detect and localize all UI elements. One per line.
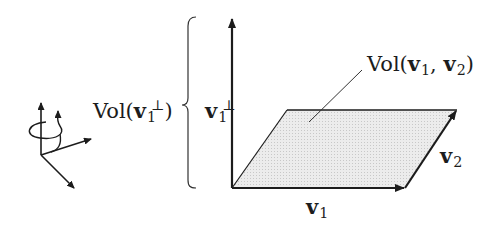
v2-label: v2 (440, 145, 462, 167)
vol-perp-label: Vol(v1⊥) (93, 100, 173, 122)
diagram-canvas (0, 0, 488, 225)
v1-label: v1 (306, 196, 328, 218)
curly-brace (182, 17, 196, 188)
perp-axis-label: v1⊥ (205, 100, 236, 122)
rotation-axes-icon (29, 103, 91, 188)
vol-area-label: Vol(v1, v2) (367, 53, 474, 75)
parallelogram (232, 110, 457, 188)
